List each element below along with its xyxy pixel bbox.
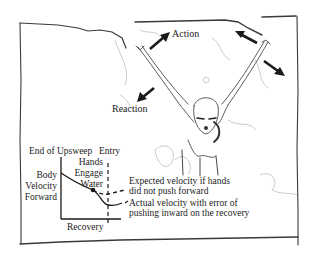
end-of-upsweep-label: End of Upsweep [29, 146, 92, 157]
y-axis-label-velocity: Velocity [20, 181, 57, 192]
hand-outward-arrow [264, 61, 285, 76]
reaction-arrow [137, 88, 154, 102]
expected-velocity-label-line2: did not push forward [129, 186, 208, 197]
action-label: Action [172, 28, 199, 39]
x-axis-label: Recovery [67, 222, 103, 233]
marker-label-hands: Hands [66, 157, 103, 168]
marker-label-engage: Engage [66, 168, 103, 179]
entry-label: Entry [99, 146, 120, 157]
actual-velocity-label-line2: pushing inward on the recovery [129, 208, 249, 219]
action-arrow [150, 32, 170, 49]
hand-inward-arrow [235, 31, 257, 43]
illustration-canvas [0, 0, 319, 260]
y-axis-label-forward: Forward [20, 192, 57, 203]
marker-label-water: Water [66, 179, 103, 190]
reaction-label: Reaction [112, 103, 148, 114]
y-axis-label-body: Body [20, 170, 57, 181]
